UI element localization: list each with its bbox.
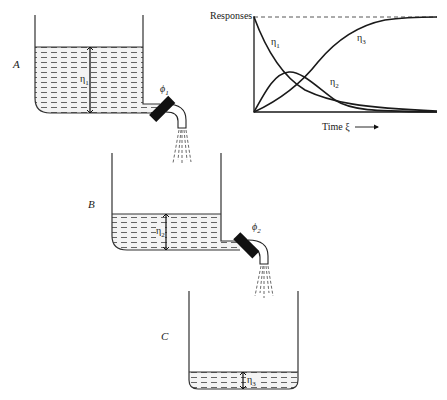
chart-axes: [254, 16, 437, 112]
x-axis-arrow-icon: [355, 125, 379, 130]
phi1-label: ϕ1: [160, 83, 169, 97]
curve-eta3: [254, 17, 437, 112]
legend-eta1: η1: [271, 36, 280, 50]
tank-c-label: C: [161, 330, 169, 342]
phi2-label: ϕ2: [252, 221, 261, 235]
tank-b-label: B: [88, 198, 95, 210]
curve-eta2: [254, 72, 437, 112]
legend-eta3: η3: [357, 32, 366, 46]
three-tank-diagram: A η1 ϕ1 B η2: [0, 0, 447, 400]
tank-a-liquid: [35, 47, 160, 113]
tank-b: B η2 ϕ2: [88, 153, 273, 298]
tank-a: A η1 ϕ1: [12, 15, 191, 163]
tank-a-label: A: [12, 58, 20, 70]
y-axis-label: Responses: [210, 10, 252, 21]
tank-c: C η3: [161, 291, 298, 389]
tank-b-right-wall: [221, 153, 240, 241]
spray-2: [255, 266, 273, 298]
tank-a-right-wall: [143, 15, 160, 104]
legend-eta2: η2: [330, 76, 339, 90]
spray-1: [173, 130, 191, 163]
valve-phi2: [233, 232, 273, 298]
response-chart: Responses η1 η2 η3 Time ξ: [210, 10, 437, 133]
x-axis-label: Time ξ: [322, 121, 350, 133]
